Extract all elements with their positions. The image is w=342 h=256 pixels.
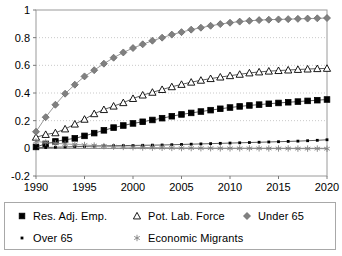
legend-swatch <box>15 231 29 245</box>
plot-area: 10.80.60.40.20-0.2 199019952000200520102… <box>0 0 342 196</box>
data-point-marker <box>111 125 117 131</box>
legend-item[interactable]: Under 65 <box>240 205 304 227</box>
data-point-marker <box>188 110 194 116</box>
data-point-marker <box>100 106 107 113</box>
data-point-marker <box>130 45 137 52</box>
data-point-marker <box>326 138 329 141</box>
legend-item-label: Over 65 <box>33 232 73 244</box>
data-point-marker <box>188 26 195 33</box>
data-point-marker <box>110 54 117 61</box>
data-point-marker <box>229 142 232 145</box>
data-point-marker <box>258 141 261 144</box>
x-tick-label: 2010 <box>218 181 242 193</box>
x-tick-label: 1995 <box>72 181 96 193</box>
legend-item-label: Pot. Lab. Force <box>148 210 225 222</box>
gridlines <box>36 38 327 149</box>
data-point-marker <box>134 235 140 241</box>
data-point-marker <box>295 99 301 105</box>
data-point-marker <box>316 139 319 142</box>
data-point-marker <box>287 140 290 143</box>
y-tick-label: 0.6 <box>15 59 30 71</box>
data-point-marker <box>33 128 40 135</box>
data-point-marker <box>275 16 282 23</box>
data-point-marker <box>72 136 78 142</box>
data-point-marker <box>178 29 185 36</box>
x-tick-label: 2000 <box>121 181 145 193</box>
legend-marker-asterisk-icon <box>130 231 144 245</box>
data-point-marker <box>110 103 117 110</box>
data-point-marker <box>256 17 263 24</box>
legend-item[interactable]: Economic Migrants <box>130 227 243 249</box>
x-tick-label: 2020 <box>315 181 339 193</box>
data-point-marker <box>305 98 311 104</box>
data-series-layer <box>32 15 330 152</box>
chart-container: 10.80.60.40.20-0.2 199019952000200520102… <box>0 0 342 256</box>
chart-legend: Res. Adj. Emp.Pot. Lab. ForceUnder 65 Ov… <box>4 202 336 250</box>
y-tick-label: 0.2 <box>15 115 30 127</box>
data-point-marker <box>139 41 146 48</box>
y-axis-ticks: 10.80.60.40.20-0.2 <box>11 4 36 182</box>
data-point-marker <box>237 104 243 110</box>
legend-marker-filled-square-icon <box>15 209 29 223</box>
legend-row: Res. Adj. Emp.Pot. Lab. ForceUnder 65 <box>5 205 335 227</box>
data-point-marker <box>304 15 311 22</box>
data-point-marker <box>21 237 24 240</box>
data-point-marker <box>285 99 291 105</box>
data-point-marker <box>150 117 156 123</box>
data-point-marker <box>100 60 107 67</box>
data-point-marker <box>35 146 38 149</box>
data-point-marker <box>266 101 272 107</box>
data-point-marker <box>120 49 127 56</box>
legend-item-label: Res. Adj. Emp. <box>33 210 107 222</box>
data-point-marker <box>179 112 185 118</box>
data-point-marker <box>62 125 69 132</box>
legend-item-label: Under 65 <box>258 210 304 222</box>
data-point-marker <box>244 213 251 220</box>
data-point-marker <box>248 141 251 144</box>
data-point-marker <box>314 15 321 22</box>
data-point-marker <box>285 16 292 23</box>
data-point-marker <box>129 95 136 102</box>
data-point-marker <box>168 31 175 38</box>
data-point-marker <box>159 115 165 121</box>
legend-marker-diamond-icon <box>240 209 254 223</box>
data-point-marker <box>91 67 98 74</box>
chart-canvas: 10.80.60.40.20-0.2 199019952000200520102… <box>0 0 342 196</box>
data-point-marker <box>169 113 175 119</box>
data-point-marker <box>149 37 156 44</box>
legend-item[interactable]: Over 65 <box>15 227 73 249</box>
data-point-marker <box>256 102 262 108</box>
data-point-marker <box>197 24 204 31</box>
x-tick-label: 2005 <box>169 181 193 193</box>
legend-swatch <box>130 209 144 223</box>
data-point-marker <box>217 21 224 28</box>
y-tick-label: 1 <box>24 4 30 16</box>
data-point-marker <box>236 18 243 25</box>
data-point-marker <box>91 130 97 136</box>
data-point-marker <box>82 133 88 139</box>
legend-marker-hollow-triangle-icon <box>130 209 144 223</box>
x-tick-label: 1990 <box>24 181 48 193</box>
data-point-marker <box>315 97 321 103</box>
legend-item[interactable]: Pot. Lab. Force <box>130 205 225 227</box>
data-point-marker <box>277 140 280 143</box>
y-tick-label: 0.4 <box>15 87 30 99</box>
y-tick-label: 0.8 <box>15 32 30 44</box>
data-point-marker <box>247 103 253 109</box>
legend-row: Over 65Economic Migrants <box>5 227 335 249</box>
data-point-marker <box>159 34 166 41</box>
data-point-marker <box>91 110 98 117</box>
data-point-marker <box>133 212 140 219</box>
data-point-marker <box>267 141 270 144</box>
data-point-marker <box>227 19 234 26</box>
legend-item-label: Economic Migrants <box>148 232 243 244</box>
data-point-marker <box>324 97 330 103</box>
legend-swatch <box>130 231 144 245</box>
legend-item[interactable]: Res. Adj. Emp. <box>15 205 107 227</box>
data-point-marker <box>19 213 25 219</box>
y-tick-label: 0 <box>24 142 30 154</box>
series-line <box>36 100 327 147</box>
legend-swatch <box>240 209 254 223</box>
data-point-marker <box>209 142 212 145</box>
data-point-marker <box>324 15 331 22</box>
